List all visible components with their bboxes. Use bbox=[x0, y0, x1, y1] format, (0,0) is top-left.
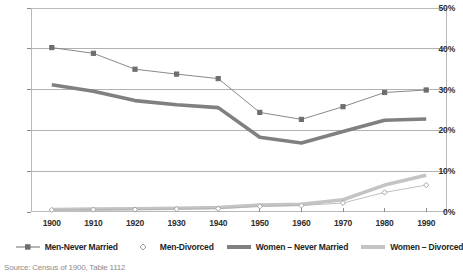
legend-label: Women – Divorced bbox=[390, 242, 463, 252]
y-tick-label: 30% bbox=[427, 85, 455, 95]
y-tick-mark bbox=[27, 130, 31, 131]
x-tick-mark bbox=[135, 208, 136, 212]
legend-key-thin-line-square-marker bbox=[15, 242, 41, 252]
x-tick-label: 1950 bbox=[238, 218, 282, 228]
y-tick-mark bbox=[27, 212, 31, 213]
y-tick-mark bbox=[27, 171, 31, 172]
x-tick-label: 1940 bbox=[196, 218, 240, 228]
source-note: Source: Census of 1900, Table 1112 bbox=[4, 263, 125, 272]
y-tick-mark bbox=[27, 89, 31, 90]
x-tick-label: 1910 bbox=[71, 218, 115, 228]
x-tick-label: 1990 bbox=[404, 218, 448, 228]
y-tick-label: 40% bbox=[427, 44, 455, 54]
x-tick-mark bbox=[384, 208, 385, 212]
x-tick-mark bbox=[426, 208, 427, 212]
x-tick-label: 1980 bbox=[363, 218, 407, 228]
legend-key-thick-bar-light bbox=[360, 242, 386, 252]
gridline bbox=[31, 89, 447, 90]
gridline bbox=[31, 130, 447, 131]
x-tick-mark bbox=[301, 208, 302, 212]
chart-legend: Men-Never MarriedMen-DivorcedWomen – Nev… bbox=[31, 239, 447, 255]
legend-item[interactable]: Women – Divorced bbox=[360, 242, 463, 252]
x-tick-label: 1920 bbox=[113, 218, 157, 228]
legend-label: Women – Never Married bbox=[256, 242, 348, 252]
x-tick-label: 1930 bbox=[155, 218, 199, 228]
x-tick-mark bbox=[176, 208, 177, 212]
y-tick-label: 10% bbox=[427, 166, 455, 176]
plot-area bbox=[31, 8, 447, 212]
legend-item[interactable]: Women – Never Married bbox=[226, 242, 348, 252]
legend-item[interactable]: Men-Divorced bbox=[130, 242, 214, 252]
x-tick-mark bbox=[51, 208, 52, 212]
legend-key-diamond-marker bbox=[130, 242, 156, 252]
x-tick-mark bbox=[218, 208, 219, 212]
x-tick-mark bbox=[343, 208, 344, 212]
y-tick-label: 0% bbox=[427, 207, 455, 217]
x-tick-label: 1900 bbox=[30, 218, 74, 228]
gridline bbox=[31, 171, 447, 172]
legend-label: Men-Never Married bbox=[45, 242, 118, 252]
legend-label: Men-Divorced bbox=[160, 242, 214, 252]
legend-item[interactable]: Men-Never Married bbox=[15, 242, 118, 252]
gridline bbox=[31, 48, 447, 49]
y-tick-label: 50% bbox=[427, 3, 455, 13]
x-tick-mark bbox=[259, 208, 260, 212]
legend-key-thick-bar-dark bbox=[226, 242, 252, 252]
y-tick-mark bbox=[27, 8, 31, 9]
y-tick-label: 20% bbox=[427, 125, 455, 135]
x-tick-mark bbox=[93, 208, 94, 212]
y-tick-mark bbox=[27, 48, 31, 49]
x-tick-label: 1960 bbox=[279, 218, 323, 228]
x-tick-label: 1970 bbox=[321, 218, 365, 228]
